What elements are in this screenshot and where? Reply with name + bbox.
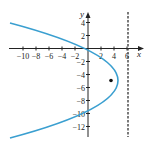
y-tick-label: −6 [76,84,85,93]
y-tick-label: 4 [81,19,85,28]
x-tick-label: 4 [112,52,116,61]
parabola-curve [10,23,118,138]
x-tick-label: −6 [45,52,54,61]
x-tick-label: −8 [32,52,41,61]
x-tick-label: −10 [17,52,30,61]
y-tick-label: −12 [72,123,85,132]
x-axis-label: x [136,49,141,59]
focus-point [109,79,113,83]
y-axis-arrow-icon [86,12,91,18]
y-axis: 4 2 −2 −4 −6 −8 −10 −12 y [72,9,90,137]
y-tick-label: −4 [76,71,85,80]
y-tick-label: 2 [81,32,85,41]
y-tick-label: −8 [76,97,85,106]
y-tick-label: −2 [76,58,85,67]
coordinate-plane: −10 −8 −6 −4 −2 2 4 6 x 4 2 −2 −4 −6 −8 … [0,0,156,142]
x-tick-label: −4 [58,52,67,61]
y-axis-label: y [79,9,84,19]
